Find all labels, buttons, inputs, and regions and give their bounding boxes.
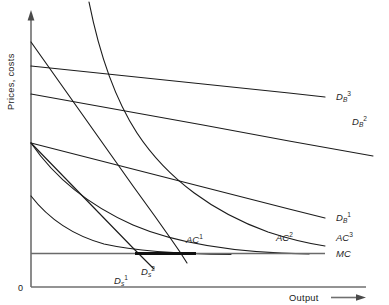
- svg-text:AC3: AC3: [335, 231, 353, 243]
- label-db3: DB3: [336, 90, 351, 103]
- y-axis-title: Prices, costs: [6, 53, 16, 110]
- label-ds2: Ds2: [141, 265, 155, 278]
- curve-ds1: [31, 143, 154, 269]
- origin-label: 0: [18, 283, 23, 293]
- chart-svg: DB3 DB2 DB1 AC3 MC AC2: [0, 0, 389, 305]
- label-ac1-base: AC: [185, 234, 199, 245]
- label-mc: MC: [336, 248, 351, 259]
- label-db2-sup: 2: [363, 115, 367, 122]
- svg-text:AC2: AC2: [275, 231, 293, 243]
- svg-text:Ds1: Ds1: [114, 274, 128, 287]
- chart-figure: DB3 DB2 DB1 AC3 MC AC2: [0, 0, 389, 305]
- label-ds2-sup: 2: [151, 265, 155, 272]
- arrow-right-icon: [356, 294, 366, 301]
- label-db2: DB2: [352, 115, 367, 128]
- x-axis-title: Output: [289, 293, 319, 303]
- label-db3-sub: B: [343, 96, 348, 103]
- label-ac2-base: AC: [275, 232, 289, 243]
- curve-db3: [31, 66, 325, 97]
- label-db1-sub: B: [343, 217, 348, 224]
- label-db1-sup: 1: [347, 211, 351, 218]
- label-mc-base: MC: [336, 248, 351, 259]
- label-db2-sub: B: [359, 121, 364, 128]
- svg-text:DB1: DB1: [336, 211, 351, 224]
- label-ds1-sup: 1: [124, 274, 128, 281]
- arrow-up-icon: [28, 10, 35, 21]
- label-ds2-sub: s: [148, 271, 152, 278]
- svg-text:DB2: DB2: [352, 115, 367, 128]
- label-ac3-base: AC: [335, 232, 349, 243]
- svg-text:Ds2: Ds2: [141, 265, 155, 278]
- label-ac1-sup: 1: [199, 233, 203, 240]
- label-db1: DB1: [336, 211, 351, 224]
- label-ac2: AC2: [275, 231, 293, 243]
- label-ac3: AC3: [335, 231, 353, 243]
- label-ac3-sup: 3: [349, 231, 353, 238]
- svg-text:DB3: DB3: [336, 90, 351, 103]
- svg-text:AC1: AC1: [185, 233, 203, 245]
- curve-ac2: [31, 143, 309, 254]
- label-db3-sup: 3: [347, 90, 351, 97]
- label-ac2-sup: 2: [289, 231, 293, 238]
- label-ac1: AC1: [185, 233, 203, 245]
- label-ds1: Ds1: [114, 274, 128, 287]
- curve-db2: [31, 94, 373, 156]
